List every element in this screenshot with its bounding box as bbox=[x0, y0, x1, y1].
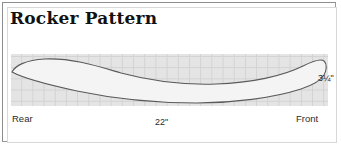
rocker-pattern-figure: Rocker Pattern Rear 22" Front 3¼" bbox=[0, 0, 341, 152]
label-front: Front bbox=[296, 113, 318, 125]
rocker-profile-shape bbox=[11, 54, 328, 106]
label-height-dimension: 3¼" bbox=[318, 72, 334, 84]
label-rear: Rear bbox=[12, 113, 33, 125]
label-length-dimension: 22" bbox=[155, 116, 168, 128]
rocker-plot-area bbox=[11, 54, 328, 106]
page-title: Rocker Pattern bbox=[10, 8, 157, 28]
